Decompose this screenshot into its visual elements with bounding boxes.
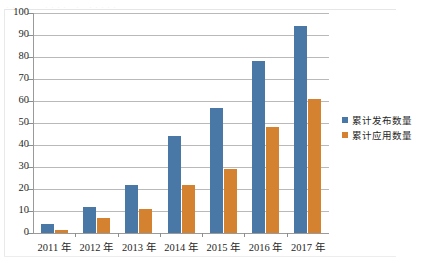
x-tick-label: 2015 年 [202, 239, 244, 254]
x-tick-label: 2013 年 [118, 239, 160, 254]
y-tick-label: 0 [2, 227, 29, 237]
y-tick-label: 100 [2, 7, 29, 17]
x-tick-mark [202, 233, 203, 237]
gridline [34, 13, 329, 14]
bar-applied [266, 127, 279, 233]
bar-published [252, 61, 265, 233]
bar-published [83, 207, 96, 233]
y-tick-label: 40 [2, 139, 29, 149]
gridline [34, 35, 329, 36]
bar-published [125, 185, 138, 233]
gridline [34, 101, 329, 102]
bar-published [294, 26, 307, 233]
x-tick-label: 2014 年 [160, 239, 202, 254]
scan-bleed-text: 。。 。 , 。。。。 。 。。。。。 [6, 1, 206, 8]
x-tick-label: 2011 年 [33, 239, 75, 254]
bar-applied [55, 230, 68, 233]
legend-label: 累计应用数量 [352, 128, 412, 142]
x-tick-label: 2017 年 [287, 239, 329, 254]
bar-applied [224, 169, 237, 233]
y-axis-labels: 0102030405060708090100 [2, 13, 29, 233]
x-tick-mark [244, 233, 245, 237]
x-tick-mark [75, 233, 76, 237]
y-tick-label: 80 [2, 51, 29, 61]
x-tick-label: 2016 年 [244, 239, 286, 254]
legend-label: 累计发布数量 [352, 113, 412, 127]
bar-applied [97, 218, 110, 233]
bar-applied [139, 209, 152, 233]
x-tick-mark [118, 233, 119, 237]
y-tick-label: 30 [2, 161, 29, 171]
bar-applied [308, 99, 321, 233]
gridline [34, 167, 329, 168]
y-tick-label: 20 [2, 183, 29, 193]
x-tick-mark [160, 233, 161, 237]
y-tick-label: 60 [2, 95, 29, 105]
bar-published [210, 108, 223, 233]
chart-legend: 累计发布数量累计应用数量 [342, 113, 428, 143]
gridline [34, 145, 329, 146]
y-tick-label: 50 [2, 117, 29, 127]
bar-applied [182, 185, 195, 233]
gridline [34, 79, 329, 80]
gridline [34, 123, 329, 124]
legend-item[interactable]: 累计发布数量 [342, 113, 428, 126]
y-tick-label: 10 [2, 205, 29, 215]
y-tick-label: 70 [2, 73, 29, 83]
x-tick-label: 2012 年 [75, 239, 117, 254]
bar-chart-figure: 。。 。 , 。。。。 。 。。。。。 01020304050607080901… [0, 0, 430, 270]
y-tick-label: 90 [2, 29, 29, 39]
plot-area: 0102030405060708090100 2011 年2012 年2013 … [33, 13, 329, 233]
y-axis-line [33, 13, 34, 233]
x-axis-line [33, 233, 329, 234]
legend-square-swatch-icon [342, 117, 348, 123]
legend-item[interactable]: 累计应用数量 [342, 128, 428, 141]
legend-square-swatch-icon [342, 132, 348, 138]
x-tick-mark [287, 233, 288, 237]
bar-published [168, 136, 181, 233]
gridline [34, 57, 329, 58]
figure-frame-top [4, 9, 396, 10]
bar-published [41, 224, 54, 233]
x-axis-labels: 2011 年2012 年2013 年2014 年2015 年2016 年2017… [33, 239, 329, 261]
